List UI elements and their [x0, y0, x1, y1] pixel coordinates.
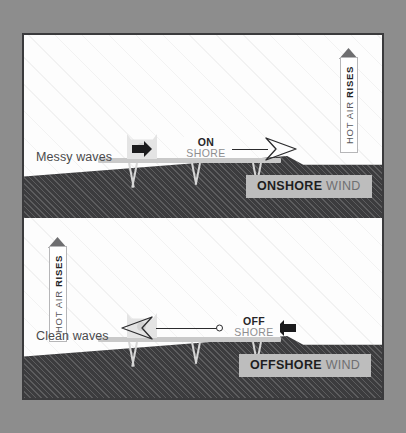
riser-text: HOT AIR RISES: [50, 247, 66, 341]
arrow-head-icon: [120, 315, 158, 341]
offshore-wind-chip: OFFSHORE WIND: [239, 354, 371, 377]
onshore-wind-label: ON SHORE: [180, 137, 232, 158]
riser-text-light: HOT AIR: [52, 290, 63, 333]
panel-onshore: ON SHORE HOT AIR RISES Messy waves ONSHO…: [24, 35, 382, 218]
onshore-wind-chip: ONSHORE WIND: [246, 175, 372, 198]
riser-text-light: HOT AIR: [343, 101, 354, 144]
offshore-wind-label-line2: SHORE: [230, 327, 278, 338]
arrow-shaft: [156, 328, 218, 329]
diagram-frame: ON SHORE HOT AIR RISES Messy waves ONSHO…: [22, 33, 384, 400]
arrow-nock-icon: [216, 325, 223, 332]
arrow-head-icon: [260, 136, 298, 162]
riser-body: HOT AIR RISES: [340, 57, 358, 153]
offshore-wave-caption: Clean waves: [36, 329, 109, 343]
arrow-tail-icon: [132, 141, 152, 157]
onshore-wave-caption: Messy waves: [36, 150, 112, 164]
panel-offshore: OFF SHORE HOT AIR RISES Clean waves OFFS…: [24, 218, 382, 398]
riser-text: HOT AIR RISES: [341, 58, 357, 152]
onshore-wind-chip-light: WIND: [326, 179, 361, 193]
onshore-wind-chip-bold: ONSHORE: [257, 179, 322, 193]
onshore-hot-air-riser: HOT AIR RISES: [339, 48, 358, 153]
riser-body: HOT AIR RISES: [49, 246, 67, 342]
onshore-wind-label-line1: ON: [182, 137, 230, 148]
riser-text-bold: RISES: [52, 255, 63, 287]
offshore-wind-chip-light: WIND: [326, 358, 361, 372]
onshore-wind-label-line2: SHORE: [182, 148, 230, 159]
offshore-wind-label-line1: OFF: [230, 316, 278, 327]
offshore-hot-air-riser: HOT AIR RISES: [48, 237, 67, 342]
riser-text-bold: RISES: [343, 66, 354, 98]
offshore-wind-label: OFF SHORE: [228, 316, 280, 337]
offshore-wind-chip-bold: OFFSHORE: [250, 358, 322, 372]
